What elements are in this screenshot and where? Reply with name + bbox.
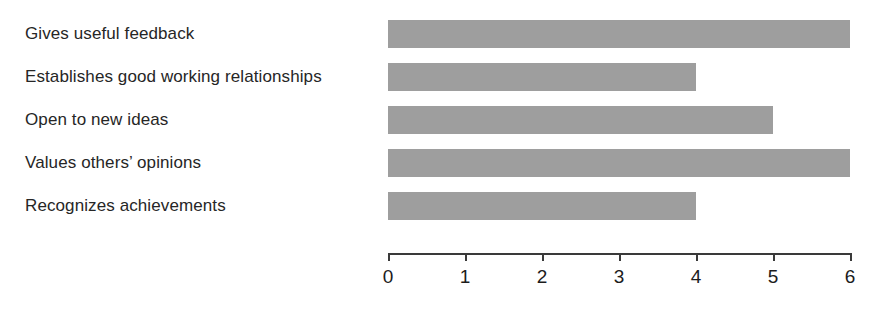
bar-category-label: Recognizes achievements <box>25 192 226 220</box>
bar-row <box>388 106 773 134</box>
bar <box>388 106 773 134</box>
bar <box>388 149 850 177</box>
bar <box>388 20 850 48</box>
x-axis-tick <box>773 253 775 261</box>
bar-category-label: Open to new ideas <box>25 106 168 134</box>
x-axis-tick-label: 5 <box>753 266 793 288</box>
x-axis-tick <box>850 253 852 261</box>
x-axis-tick <box>619 253 621 261</box>
x-axis-tick-label: 3 <box>599 266 639 288</box>
bar-row <box>388 20 850 48</box>
x-axis-tick-label: 4 <box>676 266 716 288</box>
horizontal-bar-chart: Gives useful feedback Establishes good w… <box>0 0 874 309</box>
x-axis-tick <box>388 253 390 261</box>
bar-row <box>388 192 696 220</box>
bar-category-label: Values others’ opinions <box>25 149 201 177</box>
x-axis-tick-label: 0 <box>368 266 408 288</box>
bar <box>388 63 696 91</box>
x-axis-tick-label: 1 <box>445 266 485 288</box>
x-axis-tick <box>542 253 544 261</box>
x-axis-tick <box>696 253 698 261</box>
bar-row <box>388 149 850 177</box>
x-axis-tick <box>465 253 467 261</box>
x-axis-tick-label: 6 <box>830 266 870 288</box>
bar-category-label: Establishes good working relationships <box>25 63 322 91</box>
bar-category-label: Gives useful feedback <box>25 20 194 48</box>
x-axis-tick-label: 2 <box>522 266 562 288</box>
bar-row <box>388 63 696 91</box>
bar <box>388 192 696 220</box>
